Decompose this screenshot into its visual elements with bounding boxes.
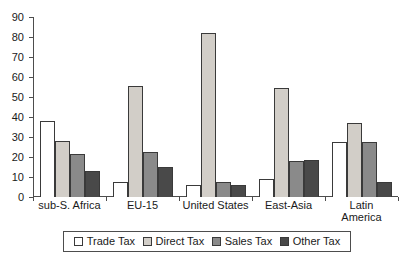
- bar-groups: [33, 17, 398, 197]
- bar-group: [325, 17, 398, 197]
- bar: [362, 142, 377, 197]
- bar-group: [179, 17, 252, 197]
- y-axis-tick-label: 10: [12, 172, 24, 183]
- y-axis-tick-label: 60: [12, 72, 24, 83]
- y-axis-tick-label: 50: [12, 92, 24, 103]
- bar: [332, 142, 347, 197]
- category-label: United States: [179, 199, 252, 223]
- bar-group: [33, 17, 106, 197]
- bar-group: [106, 17, 179, 197]
- bar: [304, 160, 319, 197]
- bar: [70, 154, 85, 197]
- category-label: East-Asia: [252, 199, 325, 223]
- legend-swatch-icon: [212, 237, 221, 246]
- category-label: sub-S. Africa: [33, 199, 106, 223]
- bar: [85, 171, 100, 197]
- bar: [186, 185, 201, 197]
- category-label: EU-15: [106, 199, 179, 223]
- legend-item[interactable]: Direct Tax: [143, 236, 205, 247]
- legend-label: Trade Tax: [87, 236, 135, 247]
- category-axis-labels: sub-S. AfricaEU-15United StatesEast-Asia…: [33, 199, 398, 223]
- legend-item[interactable]: Trade Tax: [74, 236, 135, 247]
- legend-label: Other Tax: [293, 236, 341, 247]
- y-axis-tick-label: 90: [12, 12, 24, 23]
- x-axis-tick: [398, 197, 399, 201]
- bar: [274, 88, 289, 197]
- bar: [40, 121, 55, 197]
- chart-legend: Trade TaxDirect TaxSales TaxOther Tax: [63, 231, 351, 252]
- bar: [259, 179, 274, 197]
- legend-swatch-icon: [74, 237, 83, 246]
- bar: [231, 185, 246, 197]
- bar: [128, 86, 143, 197]
- y-axis-tick-label: 30: [12, 132, 24, 143]
- y-axis-tick-label: 20: [12, 152, 24, 163]
- bar-group: [252, 17, 325, 197]
- y-axis-tick-label: 40: [12, 112, 24, 123]
- y-axis-tick-label: 0: [18, 192, 24, 203]
- y-axis-tick-label: 80: [12, 32, 24, 43]
- legend-item[interactable]: Other Tax: [280, 236, 341, 247]
- bar: [143, 152, 158, 197]
- bar: [289, 161, 304, 197]
- bar: [216, 182, 231, 197]
- legend-label: Sales Tax: [225, 236, 273, 247]
- bar: [377, 182, 392, 197]
- bar: [158, 167, 173, 197]
- category-label: Latin America: [325, 199, 398, 223]
- bar: [113, 182, 128, 197]
- bar: [347, 123, 362, 197]
- plot-area: 0102030405060708090: [33, 17, 398, 197]
- bar-chart-figure: 0102030405060708090 sub-S. AfricaEU-15Un…: [0, 0, 408, 263]
- legend-label: Direct Tax: [156, 236, 205, 247]
- legend-swatch-icon: [143, 237, 152, 246]
- bar: [201, 33, 216, 197]
- legend-item[interactable]: Sales Tax: [212, 236, 273, 247]
- y-axis-tick-label: 70: [12, 52, 24, 63]
- legend-swatch-icon: [280, 237, 289, 246]
- bar: [55, 141, 70, 197]
